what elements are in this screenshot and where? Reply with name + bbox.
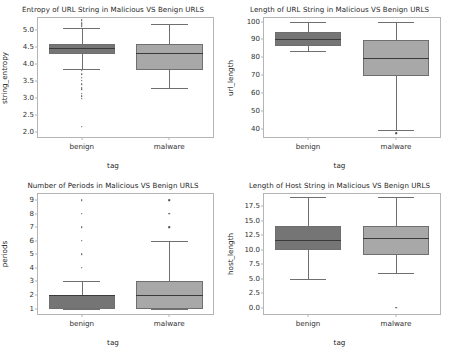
box-malware <box>363 226 430 254</box>
outlier-point <box>81 70 83 72</box>
x-tick-mark <box>169 314 170 317</box>
outlier-point <box>81 84 83 86</box>
outlier-point <box>81 26 83 28</box>
outlier-point <box>81 267 83 269</box>
x-axis-label: tag <box>0 161 226 170</box>
y-tick-mark <box>35 308 38 309</box>
plot-area: 405060708090100benignmalware <box>263 17 441 138</box>
boxplot-figure-grid: Entropy of URL String in Malicious VS Be… <box>0 0 453 353</box>
outlier-point <box>168 199 170 201</box>
y-tick-mark <box>261 235 264 236</box>
y-tick-mark <box>35 114 38 115</box>
plot-area: 2.02.53.03.54.04.55.0benignmalware <box>37 17 214 138</box>
whisker-cap-lower <box>151 88 188 89</box>
whisker-cap-lower <box>378 273 415 274</box>
outlier-point <box>81 226 83 228</box>
y-tick-mark <box>261 39 264 40</box>
x-tick-mark <box>396 314 397 317</box>
y-tick-mark <box>35 29 38 30</box>
whisker-cap-upper <box>290 197 327 198</box>
y-tick-mark <box>35 97 38 98</box>
outlier-point <box>81 126 83 128</box>
y-tick-mark <box>261 249 264 250</box>
y-tick-mark <box>35 213 38 214</box>
y-tick-mark <box>35 131 38 132</box>
whisker-cap-lower <box>63 309 100 310</box>
box-benign <box>275 226 342 249</box>
whisker-cap-upper <box>378 22 415 23</box>
y-tick-mark <box>35 254 38 255</box>
median-line-benign <box>49 295 116 296</box>
whisker-cap-upper <box>63 28 100 29</box>
y-axis-label: url_length <box>226 59 235 95</box>
x-tick-label-malware: malware <box>381 142 412 151</box>
x-tick-label-benign: benign <box>296 319 321 328</box>
x-tick-mark <box>81 137 82 140</box>
x-tick-mark <box>81 314 82 317</box>
median-line-malware <box>136 53 203 54</box>
whisker-cap-upper <box>290 22 327 23</box>
whisker-cap-upper <box>63 281 100 282</box>
panel-periods: Number of Periods in Malicious VS Benign… <box>0 176 226 353</box>
whisker-cap-lower <box>378 130 415 131</box>
whisker-cap-lower <box>290 279 327 280</box>
outlier-point <box>81 93 83 95</box>
y-tick-mark <box>261 293 264 294</box>
plot-area: 123456789benignmalware <box>37 193 214 315</box>
y-tick-mark <box>261 307 264 308</box>
x-axis-label: tag <box>226 161 453 170</box>
y-tick-mark <box>35 46 38 47</box>
outlier-point <box>81 98 83 100</box>
x-tick-label-malware: malware <box>154 319 185 328</box>
x-tick-label-malware: malware <box>381 319 412 328</box>
y-tick-mark <box>35 240 38 241</box>
x-tick-label-benign: benign <box>296 142 321 151</box>
y-tick-mark <box>261 278 264 279</box>
whisker-cap-lower <box>151 309 188 310</box>
x-axis-label: tag <box>226 338 453 347</box>
outlier-point <box>81 199 83 201</box>
outlier-point <box>168 226 170 228</box>
y-tick-mark <box>35 267 38 268</box>
median-line-benign <box>275 240 342 241</box>
box-benign <box>49 295 116 309</box>
y-tick-mark <box>261 220 264 221</box>
y-tick-mark <box>35 227 38 228</box>
y-tick-mark <box>35 80 38 81</box>
median-line-benign <box>49 48 116 49</box>
outlier-point <box>168 213 170 215</box>
y-tick-mark <box>261 93 264 94</box>
outlier-point <box>395 133 397 135</box>
y-tick-mark <box>35 281 38 282</box>
outlier-point <box>395 307 397 309</box>
y-tick-mark <box>261 206 264 207</box>
x-tick-label-benign: benign <box>69 142 94 151</box>
outlier-point <box>81 80 83 82</box>
y-tick-mark <box>261 75 264 76</box>
y-tick-mark <box>261 264 264 265</box>
y-tick-mark <box>261 111 264 112</box>
x-tick-mark <box>396 137 397 140</box>
whisker-line <box>396 22 397 129</box>
panel-title: Number of Periods in Malicious VS Benign… <box>0 181 226 190</box>
whisker-cap-upper <box>151 241 188 242</box>
x-tick-mark <box>308 314 309 317</box>
median-line-malware <box>136 295 203 296</box>
x-tick-mark <box>308 137 309 140</box>
y-axis-label: periods <box>0 241 9 268</box>
panel-entropy: Entropy of URL String in Malicious VS Be… <box>0 0 226 176</box>
outlier-point <box>81 20 83 22</box>
y-axis-label: string_entropy <box>0 51 9 103</box>
box-malware <box>136 44 203 70</box>
plot-area: 0.02.55.07.510.012.515.017.5benignmalwar… <box>263 193 441 315</box>
outlier-point <box>81 240 83 242</box>
x-tick-label-malware: malware <box>154 142 185 151</box>
panel-title: Length of URL String in Malicious VS Ben… <box>226 5 453 14</box>
median-line-malware <box>363 58 430 59</box>
x-axis-label: tag <box>0 338 226 347</box>
outlier-point <box>81 77 83 79</box>
y-tick-mark <box>35 200 38 201</box>
median-line-benign <box>275 39 342 40</box>
outlier-point <box>81 89 83 91</box>
whisker-cap-upper <box>378 197 415 198</box>
